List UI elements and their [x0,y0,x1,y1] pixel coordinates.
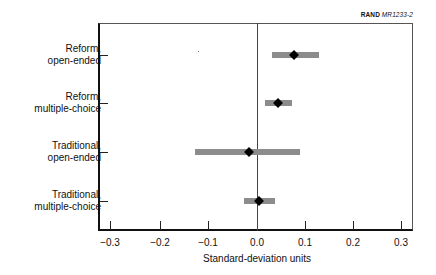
x-tick [353,221,354,230]
y-tick [100,201,108,202]
x-tick [401,221,402,230]
x-tick-label: −0.1 [198,237,218,248]
y-label-reform-open-ended: Reform, open-ended [48,43,101,67]
x-tick-label: 0.2 [346,237,360,248]
y-tick [100,103,108,104]
x-tick [305,221,306,230]
y-label-line2: open-ended [48,152,101,164]
y-tick [100,55,108,56]
y-label-traditional-multiple-choice: Traditional, multiple-choice [34,189,101,213]
x-tick-label: 0.1 [298,237,312,248]
y-label-line2: open-ended [48,55,101,67]
y-label-line2: multiple-choice [34,201,101,213]
x-tick [160,221,161,230]
figure-credit: RAND MR1233-2 [361,11,413,18]
y-label-reform-multiple-choice: Reform, multiple-choice [34,91,101,115]
y-label-line1: Reform, [34,91,101,103]
credit-org: RAND [361,11,380,18]
artifact-speck [198,51,199,52]
credit-id: MR1233-2 [382,11,413,18]
x-tick-label: 0.0 [250,237,264,248]
y-label-traditional-open-ended: Traditional, open-ended [48,140,101,164]
y-label-line1: Traditional, [48,140,101,152]
y-label-line1: Traditional, [34,189,101,201]
y-label-line2: multiple-choice [34,103,101,115]
x-tick-label: 0.3 [394,237,408,248]
y-label-line1: Reform, [48,43,101,55]
x-tick-label: −0.2 [150,237,170,248]
x-axis-title: Standard-deviation units [203,253,311,264]
x-tick-label: −0.3 [100,237,120,248]
x-tick [110,221,111,230]
y-tick [100,152,108,153]
x-tick [208,221,209,230]
